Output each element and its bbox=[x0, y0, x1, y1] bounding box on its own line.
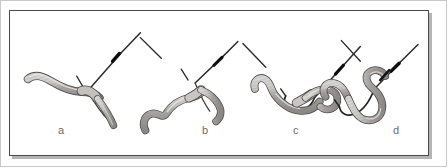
panel-c-art bbox=[243, 44, 360, 112]
worm-hook-illustration bbox=[10, 11, 428, 155]
panel-a-art bbox=[28, 33, 140, 126]
panel-label-c: c bbox=[293, 125, 299, 136]
panel-a-worm bbox=[28, 74, 114, 125]
figure-root: a b c d bbox=[0, 0, 448, 168]
panel-label-b: b bbox=[202, 125, 208, 136]
panel-label-a: a bbox=[58, 125, 64, 136]
panel-b-art bbox=[140, 38, 238, 131]
panel-label-d: d bbox=[393, 125, 399, 136]
illustration-frame: a b c d bbox=[9, 10, 429, 156]
